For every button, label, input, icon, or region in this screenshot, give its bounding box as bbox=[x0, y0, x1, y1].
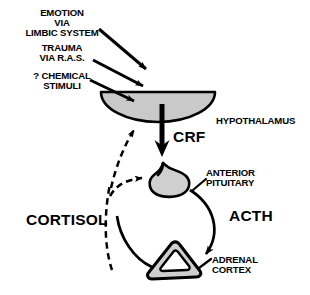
cortisol-curve-lower bbox=[117, 216, 152, 267]
organ-label-hypothalamus: HYPOTHALAMUS bbox=[216, 116, 295, 126]
anterior-pituitary-shape bbox=[150, 163, 190, 197]
hormone-label-crf: CRF bbox=[173, 129, 205, 145]
organ-label-adrenal-cortex: ADRENAL CORTEX bbox=[212, 255, 258, 275]
leader-anterior-pituitary bbox=[193, 179, 206, 190]
hypothalamus-shape bbox=[101, 92, 215, 122]
stimulus-label-trauma: TRAUMA VIA R.A.S. bbox=[14, 43, 110, 63]
cortisol-to-pituitary bbox=[110, 178, 142, 196]
hormone-label-acth: ACTH bbox=[229, 208, 273, 224]
adrenal-cortex-shape bbox=[148, 242, 201, 279]
stimulus-label-emotion: EMOTION VIA LIMBIC SYSTEM bbox=[8, 8, 116, 38]
hpa-axis-diagram: EMOTION VIA LIMBIC SYSTEM TRAUMA VIA R.A… bbox=[0, 0, 310, 295]
acth-arrow bbox=[190, 190, 214, 254]
organ-label-anterior-pituitary: ANTERIOR PITUITARY bbox=[206, 168, 255, 188]
pituitary-body bbox=[150, 163, 190, 197]
stimulus-label-chemical: ? CHEMICAL STIMULI bbox=[10, 71, 114, 91]
hypothalamus-body bbox=[101, 92, 215, 122]
leader-adrenal-cortex bbox=[199, 259, 211, 268]
cortisol-feedback-arrows bbox=[106, 130, 142, 270]
hormone-label-cortisol: CORTISOL bbox=[26, 212, 108, 228]
